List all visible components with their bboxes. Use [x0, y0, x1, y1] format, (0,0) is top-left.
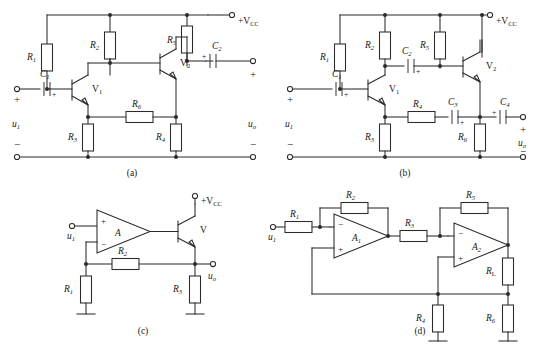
panel-a-label-R1: R1 — [26, 52, 36, 63]
panel-b-resistor-R2 — [380, 32, 391, 59]
panel-b-input-terminal-neg — [287, 154, 292, 159]
panel-a-resistor-R2 — [105, 32, 116, 59]
panel-d: R1 u1 R2 − + A1 R3 R5 − — [268, 190, 517, 341]
panel-b-resistor-R1 — [335, 44, 346, 71]
panel-b-output-plus: + — [520, 123, 526, 135]
panel-d-label-RL: RL — [485, 266, 496, 277]
panel-d-input-label: u1 — [268, 232, 276, 243]
panel-a-C1-polarity: + — [52, 90, 56, 99]
panel-c-resistor-R1 — [81, 276, 92, 303]
panel-c-output-terminal — [210, 261, 215, 266]
panel-a-input-plus: + — [14, 93, 20, 105]
panel-b-label-V2: V2 — [486, 61, 496, 72]
panel-b-resistor-R4 — [408, 112, 435, 123]
panel-c-label-R2: R2 — [117, 246, 128, 257]
panel-d-label-R1: R1 — [289, 209, 299, 220]
panel-c-resistor-R3 — [190, 276, 201, 303]
panel-b-resistor-R6 — [475, 124, 486, 151]
panel-b-C2-polarity: + — [416, 67, 420, 76]
panel-d-resistor-R2 — [341, 203, 368, 214]
panel-a-resistor-R3 — [83, 124, 94, 151]
panel-d-resistor-R6 — [503, 305, 514, 332]
panel-d-A2-minus-sign: − — [458, 228, 463, 238]
panel-b-input-plus: + — [287, 93, 293, 105]
panel-a-output-terminal-neg — [250, 154, 255, 159]
panel-d-label-R2: R2 — [345, 190, 356, 201]
panel-b-input-label: u1 — [285, 119, 293, 130]
panel-c-label-R3: R3 — [172, 284, 183, 295]
panel-a-C2-polarity: + — [202, 52, 206, 61]
panel-a-resistor-R1 — [42, 44, 53, 71]
panel-c-label-A: A — [114, 228, 121, 238]
panel-c-caption: (c) — [138, 326, 149, 337]
panel-d-resistor-R1 — [285, 222, 312, 233]
panel-d-caption: (d) — [414, 326, 425, 337]
circuit-figure-sheet: +VCC R1 R2 R5 C1 + + u1 − — [0, 0, 540, 354]
panel-b-supply-label: +VCC — [496, 16, 518, 27]
panel-a-label-R6: R6 — [131, 99, 142, 110]
panel-b-label-R5: R5 — [419, 40, 430, 51]
panel-b-output-terminal-neg — [520, 154, 525, 159]
panel-d-resistor-R4 — [433, 305, 444, 332]
panel-a-output-terminal-pos — [250, 58, 255, 63]
panel-a-caption: (a) — [127, 168, 138, 179]
panel-c-input-terminal — [69, 223, 74, 228]
panel-d-A1-minus-sign: − — [338, 219, 343, 229]
panel-a-output-minus: − — [250, 138, 256, 150]
panel-b-label-R4: R4 — [412, 99, 423, 110]
panel-a-label-V2: V2 — [180, 58, 190, 69]
panel-b-caption: (b) — [399, 168, 410, 179]
panel-a-label-V1: V1 — [92, 84, 102, 95]
panel-a-input-terminal-neg — [14, 154, 19, 159]
panel-a-label-R2: R2 — [89, 40, 100, 51]
panel-a: +VCC R1 R2 R5 C1 + + u1 − — [12, 12, 260, 179]
panel-d-label-R3: R3 — [404, 218, 415, 229]
panel-b-output-terminal-pos — [520, 114, 525, 119]
panel-a-input-label: u1 — [12, 119, 20, 130]
panel-d-label-R6: R6 — [485, 313, 496, 324]
panel-b-label-V1: V1 — [389, 84, 399, 95]
panel-d-label-R4: R4 — [415, 313, 426, 324]
panel-b-label-R2: R2 — [364, 40, 375, 51]
panel-a-label-R5: R5 — [166, 35, 177, 46]
panel-b: +VCC R1 R2 R5 C1 + + u1 − — [285, 12, 527, 179]
panel-c-supply-label: +VCC — [201, 196, 223, 207]
panel-b-input-terminal-pos — [287, 86, 292, 91]
panel-c: u1 + − A V +VCC R2 uo — [63, 193, 223, 337]
panel-d-resistor-R3 — [400, 231, 427, 242]
panel-d-label-R5: R5 — [465, 190, 476, 201]
panel-b-C1-polarity: + — [344, 90, 348, 99]
panel-d-resistor-R5 — [461, 203, 488, 214]
panel-a-input-minus: − — [14, 138, 20, 150]
panel-b-resistor-R5 — [435, 32, 446, 59]
panel-b-label-R1: R1 — [319, 52, 329, 63]
panel-b-label-R6: R6 — [457, 132, 468, 143]
panel-a-label-C2: C2 — [212, 41, 222, 52]
panel-d-A2-plus-sign: + — [458, 253, 463, 263]
panel-b-input-minus: − — [287, 138, 293, 150]
panel-a-supply-label: +VCC — [238, 16, 260, 27]
panel-c-label-V: V — [200, 225, 207, 235]
panel-c-label-R1: R1 — [63, 284, 73, 295]
panel-b-label-R3: R3 — [364, 132, 375, 143]
panel-b-label-C4: C4 — [500, 97, 510, 108]
panel-d-A1-plus-sign: + — [338, 244, 343, 254]
panel-b-C4-polarity: + — [492, 108, 496, 117]
panel-b-C3-polarity: + — [460, 118, 464, 127]
panel-b-label-C2: C2 — [402, 46, 412, 57]
panel-a-resistor-R6 — [126, 112, 153, 123]
panel-a-output-plus: + — [250, 68, 256, 80]
panel-b-label-C3: C3 — [448, 97, 458, 108]
panel-a-label-R4: R4 — [155, 132, 166, 143]
panel-a-input-terminal-pos — [14, 86, 19, 91]
panel-a-output-label: uo — [248, 119, 257, 130]
panel-d-input-terminal — [270, 224, 275, 229]
panel-c-resistor-R2 — [112, 259, 139, 270]
panel-c-opamp-minus-sign: − — [101, 239, 106, 249]
panel-c-opamp-plus-sign: + — [101, 216, 106, 226]
panel-a-label-R3: R3 — [67, 132, 78, 143]
panel-b-resistor-R3 — [380, 124, 391, 151]
panel-a-resistor-R4 — [171, 124, 182, 151]
panel-c-input-label: u1 — [67, 231, 75, 242]
panel-d-resistor-RL — [503, 258, 514, 285]
